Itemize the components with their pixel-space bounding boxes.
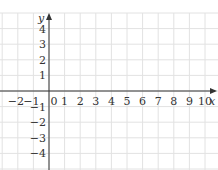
y-tick-label: −2 <box>30 116 46 129</box>
x-tick-label: 0 <box>51 95 58 108</box>
x-tick-label: 6 <box>139 95 146 108</box>
x-tick-label: 3 <box>92 95 99 108</box>
coordinate-grid: −2−1012345678910 4321−1−2−3−4 x y <box>0 0 218 170</box>
y-tick-label: 3 <box>39 38 46 51</box>
x-tick-label: 1 <box>61 95 68 108</box>
y-axis-label: y <box>37 12 45 25</box>
x-tick-label: 7 <box>155 95 162 108</box>
y-tick-label: −4 <box>30 147 46 160</box>
y-tick-label: 1 <box>39 69 46 82</box>
x-tick-label: 9 <box>186 95 193 108</box>
x-axis-arrow-icon <box>210 88 217 94</box>
x-tick-label: 2 <box>77 95 84 108</box>
y-tick-label: 2 <box>39 54 46 67</box>
y-axis-arrow-icon <box>46 13 52 20</box>
x-tick-label: 5 <box>124 95 131 108</box>
x-axis-label: x <box>209 95 216 108</box>
x-tick-label: −2 <box>8 95 24 108</box>
x-tick-label: 4 <box>108 95 115 108</box>
x-tick-label: 8 <box>170 95 177 108</box>
y-tick-label: −1 <box>30 101 46 114</box>
y-tick-label: −3 <box>30 132 46 145</box>
